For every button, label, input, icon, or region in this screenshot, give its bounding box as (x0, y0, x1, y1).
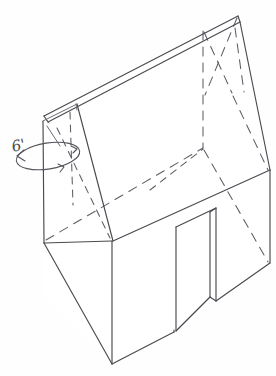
face-fills (43, 15, 270, 364)
sketch-canvas: 6' (0, 0, 276, 376)
pictorial-sketch-svg: 6' (0, 0, 276, 376)
dimension-label: 6' (10, 135, 28, 156)
